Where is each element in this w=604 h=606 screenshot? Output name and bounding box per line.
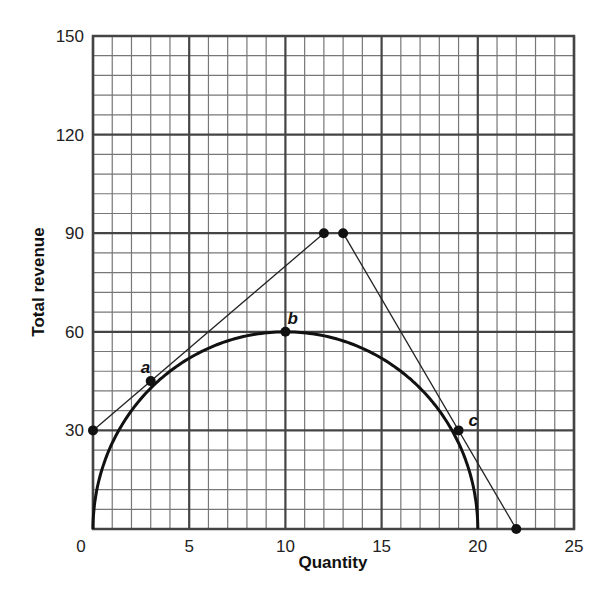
- point-marker: [338, 228, 348, 238]
- x-tick-label: 0: [76, 537, 85, 556]
- grid-minor: [93, 36, 574, 529]
- y-tick-label: 30: [65, 421, 84, 440]
- grid-major: [93, 36, 574, 529]
- tangent-line: [343, 233, 516, 529]
- point-a: [146, 376, 156, 386]
- y-axis-ticks: 306090120150: [56, 27, 84, 440]
- point-b: [280, 327, 290, 337]
- plot-frame: [93, 36, 574, 529]
- point-label-c: c: [469, 411, 479, 430]
- point-c: [454, 425, 464, 435]
- x-tick-label: 15: [372, 537, 391, 556]
- point-marker: [511, 524, 521, 534]
- y-tick-label: 60: [65, 323, 84, 342]
- x-tick-label: 20: [468, 537, 487, 556]
- y-axis-title: Total revenue: [29, 227, 48, 336]
- y-tick-label: 90: [65, 224, 84, 243]
- x-tick-label: 10: [276, 537, 295, 556]
- x-tick-label: 25: [565, 537, 584, 556]
- x-axis-title: Quantity: [299, 553, 368, 572]
- point-label-a: a: [141, 358, 150, 377]
- y-tick-label: 150: [56, 27, 84, 46]
- point-label-b: b: [287, 309, 297, 328]
- point-marker: [88, 425, 98, 435]
- point-marker: [319, 228, 329, 238]
- x-tick-label: 5: [184, 537, 193, 556]
- total-revenue-chart: abc 0510152025 306090120150 Quantity Tot…: [0, 0, 604, 606]
- y-tick-label: 120: [56, 126, 84, 145]
